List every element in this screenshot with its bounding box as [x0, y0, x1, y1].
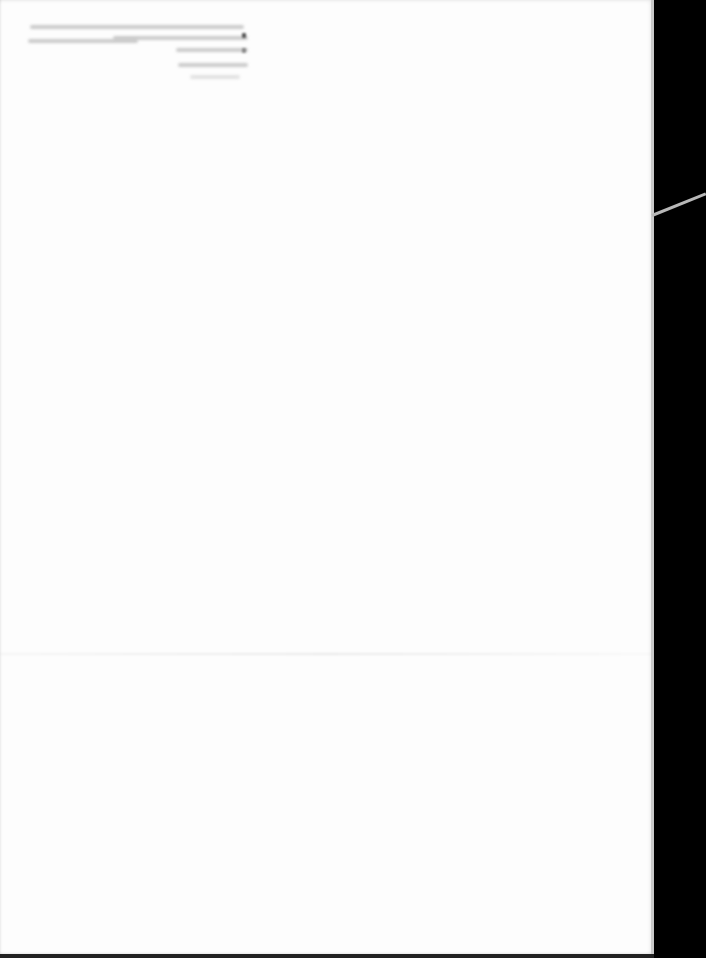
blurred-text-line — [113, 36, 248, 40]
bottom-shadow — [0, 954, 654, 958]
diagonal-edge-line — [651, 192, 706, 217]
paper-edge — [651, 0, 654, 956]
blurred-text-line — [190, 75, 240, 79]
blurred-text-line — [176, 48, 248, 52]
blurred-text-line — [30, 25, 244, 29]
paper-fold-line — [0, 653, 654, 655]
paper-sheet — [0, 0, 654, 956]
blurred-text-line — [178, 63, 248, 67]
illegible-header-text — [28, 20, 250, 90]
ink-mark — [242, 48, 246, 53]
ink-mark — [242, 33, 246, 38]
